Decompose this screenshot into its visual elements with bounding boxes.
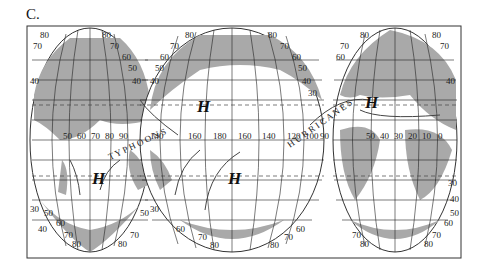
svg-text:60: 60: [176, 224, 186, 234]
svg-text:180: 180: [213, 131, 227, 141]
svg-text:30: 30: [30, 204, 40, 214]
svg-text:80: 80: [432, 30, 442, 40]
svg-text:40: 40: [150, 76, 160, 86]
svg-text:50: 50: [155, 63, 165, 73]
h-north-atlantic: H: [364, 93, 379, 112]
svg-text:80: 80: [185, 30, 195, 40]
svg-text:50: 50: [298, 63, 308, 73]
svg-text:160: 160: [238, 131, 252, 141]
svg-text:50: 50: [128, 63, 138, 73]
svg-text:80: 80: [102, 30, 112, 40]
svg-text:100: 100: [305, 131, 319, 141]
svg-text:70: 70: [440, 41, 450, 51]
svg-text:30: 30: [394, 131, 404, 141]
svg-text:40: 40: [38, 224, 48, 234]
svg-text:60: 60: [122, 52, 132, 62]
svg-text:70: 70: [340, 41, 350, 51]
svg-text:70: 70: [170, 41, 180, 51]
h-south-pacific: H: [227, 169, 242, 188]
svg-text:80: 80: [210, 240, 220, 250]
svg-text:50: 50: [63, 131, 73, 141]
svg-text:70: 70: [33, 41, 43, 51]
svg-text:80: 80: [360, 30, 370, 40]
svg-text:10: 10: [422, 131, 432, 141]
svg-text:30: 30: [308, 88, 318, 98]
svg-text:50: 50: [44, 208, 54, 218]
svg-text:70: 70: [110, 41, 120, 51]
svg-text:140: 140: [150, 131, 164, 141]
svg-text:90: 90: [119, 131, 129, 141]
svg-text:90: 90: [320, 131, 330, 141]
svg-text:40: 40: [450, 194, 460, 204]
svg-text:70: 70: [130, 230, 140, 240]
svg-text:70: 70: [432, 230, 442, 240]
svg-text:80: 80: [424, 239, 434, 249]
h-south-indian: H: [91, 169, 106, 188]
svg-text:60: 60: [336, 52, 346, 62]
svg-text:40: 40: [446, 76, 456, 86]
svg-text:80: 80: [360, 239, 370, 249]
svg-text:40: 40: [30, 76, 40, 86]
world-map: H H H H T Y P H O O N S H U R R I C A N …: [0, 0, 482, 268]
svg-text:60: 60: [56, 218, 66, 228]
svg-text:70: 70: [198, 232, 208, 242]
svg-text:120: 120: [287, 131, 301, 141]
svg-text:60: 60: [160, 52, 170, 62]
svg-text:80: 80: [270, 240, 280, 250]
svg-text:80: 80: [118, 239, 128, 249]
svg-text:50: 50: [450, 208, 460, 218]
svg-text:70: 70: [91, 131, 101, 141]
svg-text:80: 80: [40, 30, 50, 40]
svg-text:80: 80: [72, 239, 82, 249]
svg-text:60: 60: [292, 52, 302, 62]
svg-text:80: 80: [105, 131, 115, 141]
svg-text:60: 60: [77, 131, 87, 141]
svg-text:50: 50: [140, 208, 150, 218]
svg-text:60: 60: [296, 224, 306, 234]
svg-text:60: 60: [444, 218, 454, 228]
svg-text:20: 20: [408, 131, 418, 141]
svg-text:80: 80: [268, 30, 278, 40]
svg-text:30: 30: [448, 178, 458, 188]
svg-text:40: 40: [302, 76, 312, 86]
svg-text:70: 70: [280, 41, 290, 51]
svg-text:70: 70: [284, 232, 294, 242]
svg-text:50: 50: [366, 131, 376, 141]
svg-text:30: 30: [150, 204, 160, 214]
svg-text:0: 0: [438, 131, 443, 141]
svg-text:40: 40: [380, 131, 390, 141]
svg-text:40: 40: [132, 76, 142, 86]
h-north-pacific: H: [196, 97, 211, 116]
svg-text:160: 160: [188, 131, 202, 141]
svg-text:140: 140: [262, 131, 276, 141]
